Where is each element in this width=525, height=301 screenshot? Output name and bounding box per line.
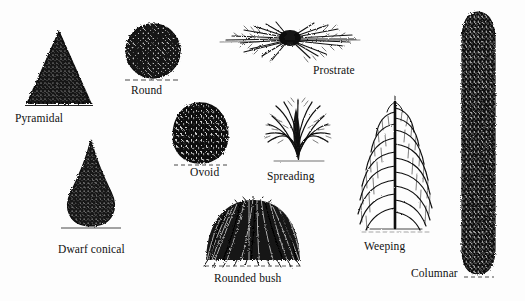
pyramidal-tree-icon xyxy=(24,30,94,110)
tree-forms-figure: Pyramidal Round xyxy=(0,0,525,301)
label-round: Round xyxy=(131,84,162,96)
label-columnar: Columnar xyxy=(411,267,458,279)
label-ovoid: Ovoid xyxy=(190,166,219,178)
rounded-bush-icon xyxy=(201,196,305,270)
label-prostrate: Prostrate xyxy=(313,64,355,76)
columnar-tree-icon xyxy=(457,10,501,282)
label-spreading: Spreading xyxy=(267,170,315,182)
label-dwarf-conical: Dwarf conical xyxy=(58,243,125,255)
weeping-tree-icon xyxy=(350,94,440,238)
prostrate-shrub-icon xyxy=(214,16,364,68)
ovoid-tree-icon xyxy=(170,102,232,168)
label-pyramidal: Pyramidal xyxy=(15,112,63,124)
spreading-shrub-icon xyxy=(258,94,338,170)
dwarf-conical-tree-icon xyxy=(55,138,127,236)
label-weeping: Weeping xyxy=(364,240,405,252)
label-rounded-bush: Rounded bush xyxy=(214,272,281,284)
round-tree-icon xyxy=(122,22,186,86)
